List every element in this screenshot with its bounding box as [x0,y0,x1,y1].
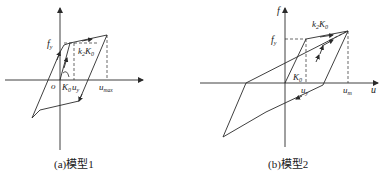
model2-arrow-up-1 [316,55,319,62]
model2-label-u-axis: u [371,84,376,95]
model2-label-um: um [343,85,353,96]
model1-label-origin: o [51,81,56,91]
model2-label-K0: K0 [292,72,302,83]
model2-caption: (b)模型2 [268,157,308,171]
hysteresis-diagrams: fy o K0 uy umax k2K0 (a)模型1 f u fy K0 uy [0,0,390,181]
model1-k0-angle-arc [63,72,69,77]
model2-loop [223,31,348,137]
model2-diagram: f u fy K0 uy um k2K0 (b)模型2 [200,5,378,171]
model2-label-uy: uy [301,85,309,96]
model1-arrow-unload [79,94,82,101]
model1-label-fy: fy [47,38,53,50]
model1-loop [32,35,107,118]
model1-label-uy: uy [72,82,80,93]
model1-diagram: fy o K0 uy umax k2K0 (a)模型1 [5,8,143,171]
model2-label-fy: fy [271,34,277,46]
model1-label-umax: umax [99,82,113,93]
model2-label-f-axis: f [277,5,281,16]
model2-arrow-up-2 [320,46,323,54]
model1-label-K0: K0 [61,82,71,93]
model1-caption: (a)模型1 [54,157,94,171]
model1-label-k2K0: k2K0 [78,46,94,57]
model2-label-k2K0: k2K0 [312,19,328,30]
